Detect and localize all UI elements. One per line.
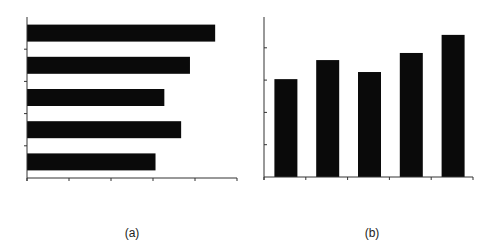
bar: [27, 121, 181, 138]
horizontal-bar-chart-a: [24, 17, 237, 181]
figure-canvas: [0, 0, 498, 250]
bar: [358, 72, 381, 177]
caption-a: (a): [125, 226, 140, 240]
vertical-bar-chart-b: [264, 17, 473, 180]
bar: [316, 60, 339, 177]
bar: [27, 57, 190, 74]
bar: [274, 79, 297, 177]
bar: [27, 153, 156, 170]
bar: [27, 89, 164, 106]
bar: [442, 35, 465, 177]
caption-b: (b): [365, 226, 380, 240]
bar: [400, 53, 423, 177]
bar: [27, 25, 215, 42]
